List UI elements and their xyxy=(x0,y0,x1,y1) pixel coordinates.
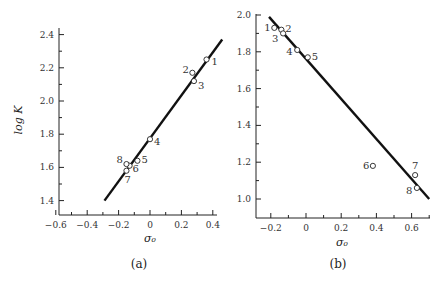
data-point xyxy=(204,57,209,62)
data-point-label: 8 xyxy=(406,185,412,196)
x-axis-title: σ₀ xyxy=(144,232,157,245)
data-point-label: 2 xyxy=(285,23,291,34)
y-tick-label: 1.2 xyxy=(237,157,251,167)
regression-line xyxy=(104,40,222,201)
data-point-label: 2 xyxy=(182,64,188,75)
y-tick-label: 1.8 xyxy=(40,129,55,139)
x-tick-label: 0 xyxy=(147,220,153,230)
data-point xyxy=(295,47,300,52)
data-point xyxy=(191,78,196,83)
data-point-label: 1 xyxy=(264,22,270,33)
data-point-label: 8 xyxy=(116,154,122,165)
data-point-label: 3 xyxy=(198,80,204,91)
x-axis-title: σ₀ xyxy=(336,236,349,249)
data-point-label: 5 xyxy=(312,51,318,62)
data-point-label: 1 xyxy=(212,56,218,67)
data-point-label: 6 xyxy=(363,160,369,171)
panel-label: (b) xyxy=(329,257,346,271)
data-point xyxy=(272,25,277,30)
figure: −0.6−0.4−0.200.20.41.41.61.82.02.22.4123… xyxy=(0,0,443,283)
y-tick-label: 1.6 xyxy=(40,162,55,172)
x-tick-label: −0.2 xyxy=(108,220,130,230)
x-tick-label: −0.2 xyxy=(260,223,282,233)
y-tick-label: 2.4 xyxy=(40,30,55,40)
x-tick-label: 0.6 xyxy=(404,223,419,233)
data-point xyxy=(281,31,286,36)
y-tick-label: 1.4 xyxy=(237,120,252,130)
data-point-label: 7 xyxy=(124,174,130,185)
regression-line xyxy=(269,17,429,199)
data-point-label: 6 xyxy=(133,163,139,174)
x-tick-label: −0.4 xyxy=(76,220,98,230)
chart-panel-a: −0.6−0.4−0.200.20.41.41.61.82.02.22.4123… xyxy=(12,28,222,271)
data-point xyxy=(190,70,195,75)
data-point-label: 4 xyxy=(154,136,160,147)
data-point xyxy=(413,172,418,177)
data-point-label: 5 xyxy=(141,154,147,165)
chart-panel-b: −0.200.20.40.61.01.21.41.61.82.012345678… xyxy=(237,10,430,271)
data-point xyxy=(124,161,129,166)
data-point xyxy=(414,185,419,190)
x-tick-label: 0.2 xyxy=(334,223,348,233)
data-point-label: 3 xyxy=(272,33,278,44)
x-tick-label: −0.6 xyxy=(45,220,67,230)
x-tick-label: 0.4 xyxy=(206,220,221,230)
data-point-label: 7 xyxy=(412,160,418,171)
y-tick-label: 1.4 xyxy=(40,196,55,206)
y-tick-label: 1.8 xyxy=(237,47,252,57)
data-point-label: 4 xyxy=(286,46,292,57)
y-axis-title: log K xyxy=(12,105,25,135)
x-tick-label: 0 xyxy=(303,223,309,233)
y-tick-label: 1.0 xyxy=(237,194,252,204)
y-tick-label: 1.6 xyxy=(237,84,252,94)
data-point xyxy=(370,163,375,168)
data-point xyxy=(124,168,129,173)
data-point xyxy=(147,137,152,142)
y-tick-label: 2.0 xyxy=(237,10,252,20)
x-tick-label: 0.4 xyxy=(369,223,384,233)
data-point xyxy=(305,55,310,60)
y-tick-label: 2.0 xyxy=(40,96,55,106)
x-tick-label: 0.2 xyxy=(174,220,188,230)
panel-label: (a) xyxy=(131,257,148,271)
y-tick-label: 2.2 xyxy=(40,63,54,73)
